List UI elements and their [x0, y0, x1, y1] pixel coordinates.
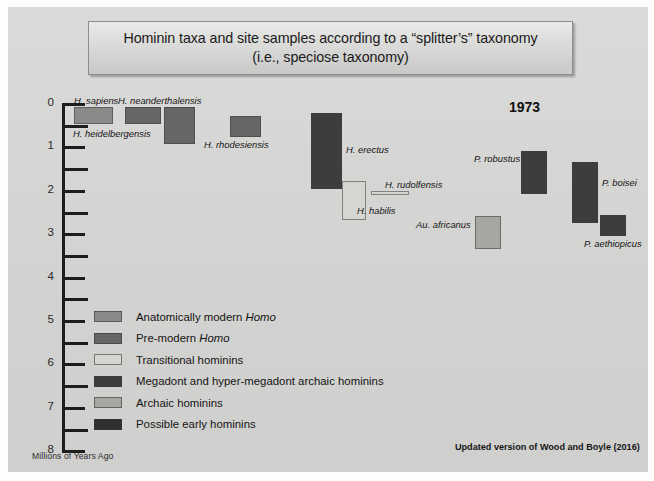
legend-item-megadont_archaic: Megadont and hyper-megadont archaic homi… [94, 371, 384, 393]
legend-item-transitional_hominins: Transitional hominins [94, 349, 384, 371]
taxon-bar-p-robustus [521, 151, 547, 194]
title-line-1: Hominin taxa and site samples according … [123, 30, 537, 46]
legend-item-possible_early_hominins: Possible early hominins [94, 414, 384, 436]
taxon-bar-h-sapiens [74, 107, 113, 124]
credit-note: Updated version of Wood and Boyle (2016) [455, 442, 640, 452]
taxon-label-h-erectus: H. erectus [346, 144, 389, 155]
title-line-2: (i.e., speciose taxonomy) [252, 49, 408, 65]
y-axis-caption: Millions of Years Ago [32, 451, 113, 461]
legend-item-archaic_hominins: Archaic hominins [94, 392, 384, 414]
y-tick-major-6 [62, 363, 85, 366]
taxon-bar-h-erectus [311, 113, 342, 189]
y-tick-minor-3.5 [65, 255, 88, 258]
y-tick-minor-2.5 [65, 212, 88, 215]
taxon-bar-h-rudolfensis [371, 191, 409, 195]
legend-label-archaic_hominins: Archaic hominins [136, 397, 223, 409]
legend-swatch-anatomically_modern_homo [94, 311, 122, 322]
y-tick-label-4: 4 [28, 270, 54, 282]
page-title: Hominin taxa and site samples according … [117, 29, 543, 67]
legend-item-pre_modern_homo: Pre-modern Homo [94, 328, 384, 350]
taxon-label-h-sapiens: H. sapiens [74, 95, 118, 106]
legend-swatch-pre_modern_homo [94, 333, 122, 344]
y-tick-major-5 [62, 320, 85, 323]
taxon-bar-p-boisei [572, 162, 598, 223]
y-tick-label-7: 7 [28, 400, 54, 412]
y-tick-minor-4.5 [65, 298, 88, 301]
y-tick-label-0: 0 [28, 96, 54, 108]
legend: Anatomically modern HomoPre-modern HomoT… [94, 306, 384, 435]
y-tick-major-7 [62, 407, 85, 410]
title-box: Hominin taxa and site samples according … [88, 21, 573, 75]
taxon-label-h-rhodesiensis: H. rhodesiensis [204, 139, 269, 150]
y-tick-minor-5.5 [65, 342, 88, 345]
legend-item-anatomically_modern_homo: Anatomically modern Homo [94, 306, 384, 328]
y-tick-label-3: 3 [28, 226, 54, 238]
y-tick-major-3 [62, 233, 85, 236]
legend-label-possible_early_hominins: Possible early hominins [136, 418, 256, 430]
taxon-label-h-habilis: H. habilis [357, 205, 396, 216]
y-tick-label-1: 1 [28, 139, 54, 151]
y-tick-minor-7.5 [65, 429, 88, 432]
taxon-label-p-robustus: P. robustus [474, 153, 520, 164]
year-label: 1973 [509, 99, 540, 115]
taxon-label-au-africanus: Au. africanus [416, 219, 471, 230]
y-tick-major-1 [62, 146, 85, 149]
legend-swatch-transitional_hominins [94, 354, 122, 365]
taxon-label-h-neanderthalensis: H. neanderthalensis [118, 95, 201, 106]
y-tick-minor-6.5 [65, 385, 88, 388]
taxon-label-p-aethiopicus: P. aethiopicus [584, 238, 642, 249]
taxon-label-p-boisei: P. boisei [602, 177, 637, 188]
y-tick-minor-1.5 [65, 168, 88, 171]
y-tick-label-5: 5 [28, 313, 54, 325]
taxon-bar-p-aethiopicus [600, 215, 626, 236]
taxon-bar-h-rhodesiensis [230, 116, 261, 137]
y-tick-major-4 [62, 277, 85, 280]
taxon-bar-h-heidelbergensis [164, 107, 195, 144]
taxon-bar-h-neanderthalensis [125, 107, 161, 124]
y-tick-major-2 [62, 190, 85, 193]
legend-label-transitional_hominins: Transitional hominins [136, 354, 243, 366]
legend-label-pre_modern_homo: Pre-modern Homo [136, 332, 230, 344]
taxon-bar-au-africanus [475, 216, 501, 249]
taxon-label-h-heidelbergensis: H. heidelbergensis [73, 128, 151, 139]
y-tick-label-2: 2 [28, 183, 54, 195]
legend-swatch-possible_early_hominins [94, 419, 122, 430]
slide-canvas: Hominin taxa and site samples according … [8, 7, 648, 472]
legend-label-megadont_archaic: Megadont and hyper-megadont archaic homi… [136, 375, 384, 387]
y-tick-label-6: 6 [28, 356, 54, 368]
legend-swatch-archaic_hominins [94, 397, 122, 408]
legend-label-anatomically_modern_homo: Anatomically modern Homo [136, 311, 276, 323]
taxon-label-h-rudolfensis: H. rudolfensis [385, 179, 442, 190]
legend-swatch-megadont_archaic [94, 376, 122, 387]
